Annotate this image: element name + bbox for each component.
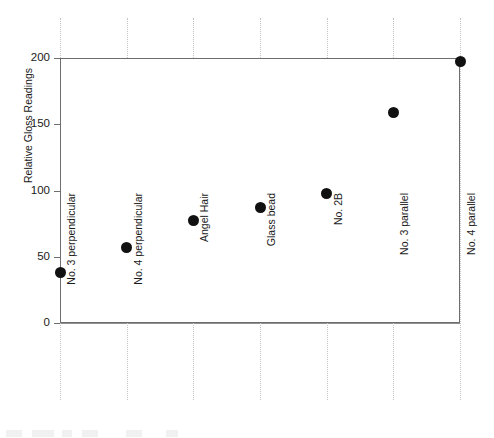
y-tick-50 — [54, 257, 60, 258]
y-tick-100 — [54, 191, 60, 192]
gridline-vertical-7 — [460, 18, 461, 400]
x-label-1: No. 3 perpendicular — [66, 193, 77, 333]
gloss-readings-scatter-chart: 200 150 100 50 0 Relative Gloss Readings… — [0, 0, 494, 438]
x-label-4: Glass bead — [266, 193, 277, 333]
y-tick-label-50: 50 — [4, 251, 50, 263]
x-label-7: No. 4 parallel — [466, 193, 477, 333]
x-label-6: No. 3 parallel — [399, 193, 410, 333]
x-label-3: Angel Hair — [199, 193, 210, 333]
y-tick-label-0: 0 — [4, 317, 50, 329]
x-label-2: No. 4 perpendicular — [133, 193, 144, 333]
x-label-5: No. 2B — [333, 193, 344, 333]
data-point-4 — [255, 202, 266, 213]
data-point-5 — [321, 188, 332, 199]
y-tick-0 — [54, 323, 60, 324]
data-point-6 — [388, 107, 399, 118]
cropped-caption-sliver — [6, 430, 256, 437]
data-point-7 — [455, 56, 466, 67]
y-tick-150 — [54, 124, 60, 125]
data-point-1 — [55, 267, 66, 278]
y-tick-200 — [54, 58, 60, 59]
y-axis-title: Relative Gloss Readings — [23, 36, 34, 216]
